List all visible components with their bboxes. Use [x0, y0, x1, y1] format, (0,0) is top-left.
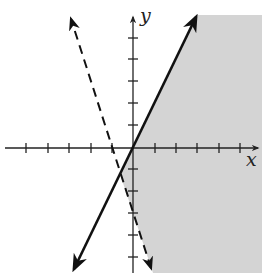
y-axis-label: y [139, 4, 151, 26]
inequality-graph: x y [0, 0, 263, 273]
shaded-region [120, 15, 262, 273]
x-axis-label: x [246, 148, 257, 170]
